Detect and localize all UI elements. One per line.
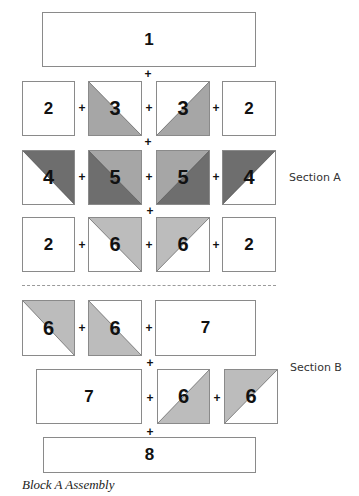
block-number: 3 [157,82,209,135]
block-number: 8 [44,438,255,472]
block-number: 6 [157,218,209,271]
block-number: 2 [23,82,74,135]
block-2: 2 [22,81,75,136]
block-number: 2 [223,218,275,271]
plus-sign: + [211,103,221,113]
block-number: 7 [156,301,255,355]
plus-sign: + [143,69,153,79]
block-7: 7 [36,369,142,424]
block-2: 2 [22,217,75,272]
block-6-hst: 6 [22,300,75,356]
section-b-label: Section B [290,361,342,374]
block-number: 2 [223,82,275,135]
block-4-hst: 4 [22,150,75,205]
block-1: 1 [42,12,256,67]
block-number: 7 [37,370,141,423]
block-number: 3 [89,82,141,135]
block-number: 6 [89,218,141,271]
block-3-hst: 3 [88,81,142,136]
plus-sign: + [211,240,221,250]
block-6-hst: 6 [88,300,142,356]
block-7: 7 [155,300,256,356]
block-number: 6 [89,301,141,355]
plus-sign: + [77,103,87,113]
plus-sign: + [211,172,221,182]
block-5-hst: 5 [156,150,210,205]
block-number: 4 [223,151,275,204]
figure-caption: Block A Assembly [22,477,114,493]
plus-sign: + [212,393,222,403]
block-number: 4 [23,151,74,204]
plus-sign: + [144,323,154,333]
block-6-hst: 6 [156,217,210,272]
plus-sign: + [77,323,87,333]
section-a-label: Section A [289,171,341,184]
plus-sign: + [145,206,155,216]
plus-sign: + [77,172,87,182]
block-2: 2 [222,217,276,272]
block-number: 1 [43,13,255,66]
plus-sign: + [143,137,153,147]
block-3-hst: 3 [156,81,210,136]
block-number: 5 [157,151,209,204]
block-6-hst: 6 [224,369,278,424]
plus-sign: + [145,393,155,403]
section-divider [22,285,276,286]
block-number: 6 [225,370,277,423]
block-number: 6 [158,370,209,423]
block-8: 8 [43,437,256,473]
block-number: 5 [89,151,141,204]
block-5-hst: 5 [88,150,142,205]
plus-sign: + [145,358,155,368]
plus-sign: + [77,240,87,250]
block-6-hst: 6 [157,369,210,424]
block-4-hst: 4 [222,150,276,205]
block-number: 2 [23,218,74,271]
plus-sign: + [144,103,154,113]
block-6-hst: 6 [88,217,142,272]
block-2: 2 [222,81,276,136]
plus-sign: + [144,172,154,182]
block-number: 6 [23,301,74,355]
plus-sign: + [145,427,155,437]
plus-sign: + [144,240,154,250]
